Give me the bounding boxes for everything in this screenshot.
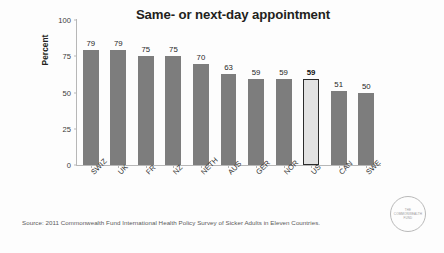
bar — [138, 56, 154, 165]
bar — [110, 50, 126, 165]
bar-value-label: 51 — [334, 80, 343, 89]
y-axis-tick-label: 75 — [63, 52, 71, 61]
commonwealth-fund-logo: THE COMMONWEALTH FUND — [390, 196, 426, 232]
bar-group: 70NETH — [193, 20, 209, 165]
logo-line-3: FUND — [404, 216, 413, 220]
chart-figure: Same- or next-day appointment Percent 02… — [0, 0, 444, 253]
bar — [165, 56, 181, 165]
y-axis-tick-label: 50 — [63, 88, 71, 97]
bar — [193, 64, 209, 166]
bar-group: 50SWE — [358, 20, 374, 165]
y-axis-title: Percent — [40, 20, 50, 80]
bar-value-label: 59 — [279, 68, 288, 77]
bar — [331, 91, 347, 165]
bar-group: 75FR — [138, 20, 154, 165]
y-axis-tick-mark — [74, 128, 77, 129]
bar-highlighted — [303, 79, 319, 165]
bar — [83, 50, 99, 165]
bar-group: 59GER — [248, 20, 264, 165]
y-axis-tick-mark — [74, 20, 77, 21]
bar — [221, 74, 237, 165]
bar-group: 59US — [303, 20, 319, 165]
y-axis-tick-label: 25 — [63, 124, 71, 133]
bar-value-label: 79 — [114, 39, 123, 48]
bar — [358, 93, 374, 166]
y-axis-tick-label: 100 — [58, 16, 71, 25]
bar-group: 63AUS — [221, 20, 237, 165]
bar-value-label: 79 — [86, 39, 95, 48]
bar — [248, 79, 264, 165]
source-note: Source: 2011 Commonwealth Fund Internati… — [22, 219, 320, 226]
bar-value-label: 63 — [224, 63, 233, 72]
y-axis-tick-label: 0 — [67, 161, 71, 170]
bar-value-label: 75 — [142, 45, 151, 54]
y-axis-tick-mark — [74, 165, 77, 166]
y-axis-tick-mark — [74, 92, 77, 93]
bar-value-label: 70 — [197, 53, 206, 62]
bar-group: 79SWIZ — [83, 20, 99, 165]
bar-value-label: 59 — [252, 68, 261, 77]
y-axis-tick-mark — [74, 56, 77, 57]
bar — [276, 79, 292, 165]
bar-group: 75NZ — [165, 20, 181, 165]
bar-value-label: 75 — [169, 45, 178, 54]
bar-value-label: 50 — [362, 82, 371, 91]
bar-group: 51CAN — [331, 20, 347, 165]
bar-group: 79UK — [110, 20, 126, 165]
plot-area: 025507510079SWIZ79UK75FR75NZ70NETH63AUS5… — [77, 20, 380, 165]
bar-group: 59NOR — [276, 20, 292, 165]
bar-value-label: 59 — [307, 68, 316, 77]
